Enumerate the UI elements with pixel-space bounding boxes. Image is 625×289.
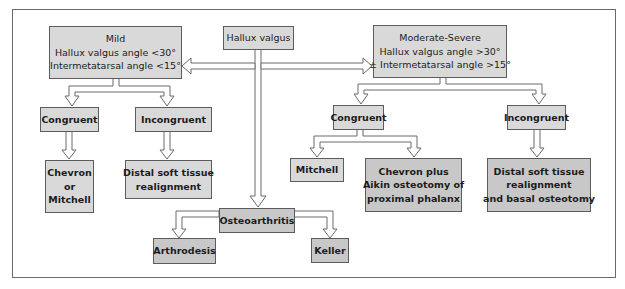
keller-box: Keller: [311, 238, 349, 263]
mild-box: Mild Hallux valgus angle <30° Intermetat…: [49, 26, 182, 79]
mild-title: Mild: [106, 32, 126, 46]
severe-distal-soft-tissue-box: Distal soft tissue realignment and basal…: [487, 158, 591, 212]
mild-incongruent-box: Incongruent: [135, 107, 212, 132]
mild-line-1: Hallux valgus angle <30°: [55, 46, 176, 60]
hallux-valgus-box: Hallux valgus: [223, 26, 294, 50]
treatment-line: Distal soft tissue: [494, 165, 585, 179]
arrow-congruent-to-chevron: [62, 131, 76, 159]
treatment-line: Mitchell: [48, 193, 91, 207]
arrow-right-incongruent-to-distal: [530, 129, 544, 157]
severe-congruent-box: Congruent: [333, 105, 384, 130]
mild-congruent-label: Congruent: [41, 113, 97, 127]
arrow-right-congruent-split: [310, 129, 421, 157]
treatment-line: Distal soft tissue: [123, 166, 214, 180]
arrow-osteoarthritis-to-keller: [294, 211, 337, 238]
arrow-root-to-moderate: [261, 58, 372, 74]
treatment-line: proximal phalanx: [367, 192, 460, 206]
arthrodesis-box: Arthrodesis: [153, 238, 216, 264]
hallux-valgus-label: Hallux valgus: [227, 31, 291, 45]
arrow-osteoarthritis-to-arthrodesis: [172, 211, 219, 238]
treatment-line: and basal osteotomy: [483, 192, 595, 206]
moderate-severe-title: Moderate-Severe: [399, 31, 481, 45]
moderate-severe-line-2: ± Intermetatarsal angle >15°: [369, 58, 511, 72]
mild-distal-soft-tissue-box: Distal soft tissue realignment: [125, 160, 212, 199]
arrow-root-to-osteoarthritis: [250, 49, 266, 207]
treatment-line: Aikin osteotomy of: [363, 178, 464, 192]
severe-incongruent-box: Incongruent: [507, 105, 566, 130]
mild-line-2: Intermetatarsal angle <15°: [50, 59, 181, 73]
arrow-incongruent-to-distal: [160, 131, 174, 159]
treatment-line: realignment: [136, 180, 201, 194]
chevron-plus-aikin-box: Chevron plus Aikin osteotomy of proximal…: [365, 158, 462, 212]
mild-congruent-box: Congruent: [40, 107, 99, 132]
mitchell-box: Mitchell: [290, 158, 344, 182]
severe-incongruent-label: Incongruent: [504, 111, 569, 125]
keller-label: Keller: [314, 244, 345, 258]
chevron-or-mitchell-box: Chevron or Mitchell: [45, 160, 94, 213]
mild-incongruent-label: Incongruent: [141, 113, 206, 127]
arthrodesis-label: Arthrodesis: [153, 244, 215, 258]
osteoarthritis-box: Osteoarthritis: [219, 208, 295, 233]
treatment-line: or: [64, 180, 75, 194]
severe-congruent-label: Congruent: [330, 111, 386, 125]
moderate-severe-box: Moderate-Severe Hallux valgus angle >30°…: [373, 25, 507, 78]
arrow-moderate-split: [354, 77, 546, 104]
treatment-line: Chevron plus: [378, 165, 448, 179]
arrow-mild-split: [65, 78, 174, 106]
moderate-severe-line-1: Hallux valgus angle >30°: [379, 45, 500, 59]
arrow-root-to-mild: [182, 58, 255, 74]
mitchell-label: Mitchell: [296, 163, 339, 177]
treatment-line: Chevron: [47, 166, 91, 180]
treatment-line: realignment: [506, 178, 571, 192]
osteoarthritis-label: Osteoarthritis: [219, 214, 294, 228]
